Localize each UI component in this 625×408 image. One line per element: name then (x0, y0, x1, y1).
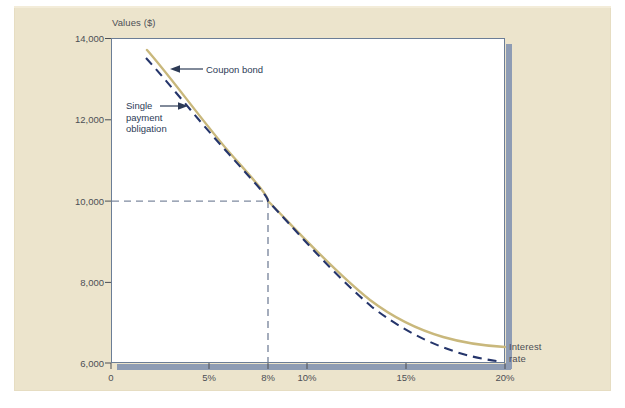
series-single-payment-obligation (146, 58, 497, 361)
series-coupon-bond (147, 50, 505, 347)
intersection-guides (112, 201, 268, 362)
figure-container: Values ($) Interest rate 14,000 12,000 1… (0, 0, 625, 408)
chart-vector-layer (0, 0, 625, 408)
tick-marks (105, 39, 505, 370)
